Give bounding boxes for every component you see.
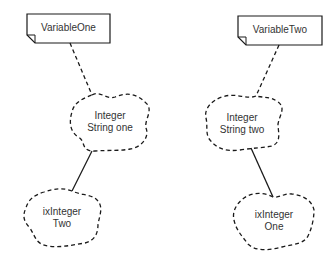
- cloud-left-upper-line2: String one: [70, 122, 150, 134]
- note-label-variable-two: VariableTwo: [238, 24, 322, 36]
- note-label-variable-one: VariableOne: [27, 22, 110, 34]
- cloud-right-upper-line2: String two: [204, 124, 280, 136]
- cloud-right-lower-line1: ixInteger: [234, 209, 314, 221]
- association-line-left: [72, 151, 92, 191]
- dependency-line-right: [256, 45, 279, 96]
- cloud-right-upper-line1: Integer: [204, 112, 280, 124]
- dependency-line-left: [70, 43, 92, 95]
- association-line-right: [251, 148, 273, 197]
- cloud-right-lower-line2: One: [234, 221, 314, 233]
- diagram-canvas: VariableOne VariableTwo Integer String o…: [0, 0, 336, 262]
- cloud-left-lower-line1: ixInteger: [22, 206, 102, 218]
- cloud-left-upper-line1: Integer: [70, 110, 150, 122]
- cloud-left-lower-line2: Two: [22, 218, 102, 230]
